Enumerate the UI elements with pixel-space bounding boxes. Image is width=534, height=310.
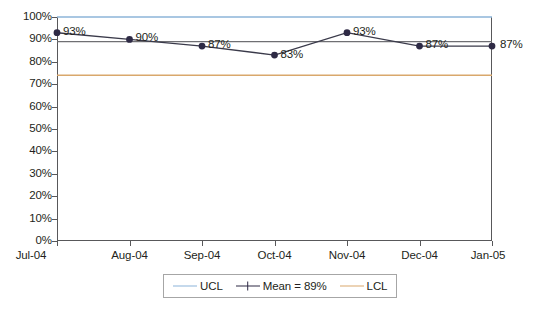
data-point-marker	[489, 43, 496, 50]
legend-marker-icon	[247, 282, 249, 291]
legend-entry-lcl: LCL	[340, 280, 388, 292]
data-point-marker	[199, 43, 206, 50]
legend-label: LCL	[367, 280, 388, 292]
legend-entry-mean: Mean = 89%	[236, 280, 327, 292]
data-point-marker	[344, 29, 351, 36]
legend-swatch-icon	[173, 281, 197, 291]
legend-swatch-icon	[340, 281, 364, 291]
data-point-marker	[126, 36, 133, 43]
data-point-label: 90%	[136, 33, 159, 45]
data-point-label: 87%	[500, 39, 523, 51]
data-point-marker	[54, 29, 61, 36]
legend-entry-ucl: UCL	[173, 280, 223, 292]
data-point-label: 87%	[208, 39, 231, 51]
data-point-label: 87%	[426, 39, 449, 51]
data-point-label: 93%	[63, 26, 86, 38]
legend-label: UCL	[200, 280, 223, 292]
chart-legend: UCL Mean = 89% LCL	[163, 274, 397, 298]
series-layer	[0, 0, 534, 310]
data-point-marker	[416, 43, 423, 50]
legend-label: Mean = 89%	[263, 280, 327, 292]
data-point-label: 83%	[281, 49, 304, 61]
data-point-label: 93%	[353, 26, 376, 38]
control-chart: 100% 90% 80% 70% 60% 50% 40% 30% 20% 10%…	[0, 0, 534, 310]
data-point-marker	[271, 52, 278, 59]
legend-swatch-icon	[236, 281, 260, 291]
